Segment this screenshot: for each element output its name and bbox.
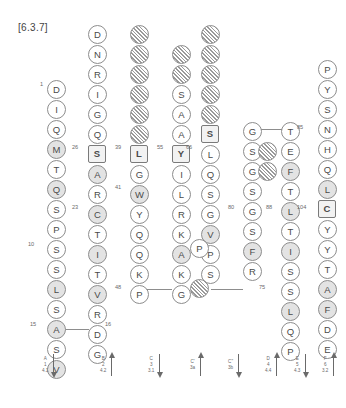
legend-cd-down-arrow-icon (235, 352, 242, 378)
residue-strand-c-5 (130, 125, 149, 144)
residue-strand-e-2: F (281, 162, 300, 181)
residue-strand-f-0: P (318, 60, 337, 79)
num-1: 1 (40, 82, 43, 88)
bulge-hatch-cdouble (190, 279, 209, 298)
residue-strand-f-2: S (318, 100, 337, 119)
legend-cp-up-arrow-icon (197, 352, 204, 378)
residue-strand-c-double-prime-2 (201, 65, 220, 84)
legend-a-text: A14.1 (42, 356, 48, 373)
topology-diagram: [6.3.7] DIQMTQSPSSLSASVDNRIGQSARCTITVRDG… (0, 0, 346, 408)
num-48: 48 (115, 285, 121, 291)
residue-strand-c-10: Q (130, 225, 149, 244)
residue-strand-f-12: F (318, 300, 337, 319)
residue-strand-d-5: S (243, 222, 262, 241)
residue-strand-c-7: G (130, 165, 149, 184)
residue-strand-f-4: H (318, 140, 337, 159)
legend-f-text: F63.2 (322, 356, 328, 373)
residue-strand-c-3 (130, 85, 149, 104)
residue-strand-e-7: S (281, 262, 300, 281)
residue-strand-c-prime-8: R (172, 205, 191, 224)
residue-strand-f-7: C (318, 200, 336, 218)
residue-strand-c-double-prime-9: G (201, 205, 220, 224)
residue-strand-c-6: L (130, 145, 148, 163)
residue-strand-b-13: V (88, 285, 107, 304)
legend-f: F63.2 (322, 352, 337, 378)
num-39: 39 (115, 145, 121, 151)
residue-strand-f-3: N (318, 120, 337, 139)
residue-strand-f-1: Y (318, 80, 337, 99)
residue-strand-c-prime-12: G (172, 285, 191, 304)
legend-cd-text: C"3b (228, 359, 233, 370)
arrow-head (157, 372, 163, 378)
residue-strand-a-3: M (47, 140, 66, 159)
residue-strand-b-2: R (88, 65, 107, 84)
residue-strand-c-double-prime-8: S (201, 185, 220, 204)
legend-f-code: 3.2 (322, 368, 328, 374)
num-26: 26 (72, 145, 78, 151)
bulge-hatch-d-upper (258, 142, 277, 161)
residue-strand-b-10: T (88, 225, 107, 244)
legend-b-code: 4.2 (100, 368, 106, 374)
num-88: 88 (266, 205, 272, 211)
residue-strand-d-0: G (243, 122, 262, 141)
residue-strand-f-5: Q (318, 160, 337, 179)
residue-strand-c-prime-11: K (172, 265, 191, 284)
residue-strand-c-prime-7: L (172, 185, 191, 204)
residue-strand-f-9: Y (318, 240, 337, 259)
legend-c-down-arrow-icon (156, 352, 163, 378)
legend-cp: C'3a (190, 352, 204, 378)
residue-strand-c-double-prime-0 (201, 25, 220, 44)
num-75: 75 (259, 285, 265, 291)
residue-strand-b-8: R (88, 185, 107, 204)
legend-c-code: 3.1 (148, 368, 154, 374)
legend-cp-number: 3a (190, 365, 195, 371)
residue-strand-b-5: Q (88, 125, 107, 144)
arrow-head (303, 372, 309, 378)
residue-strand-e-10: Q (281, 322, 300, 341)
residue-strand-c-8: W (130, 185, 149, 204)
residue-strand-a-9: S (47, 260, 66, 279)
residue-strand-e-1: E (281, 142, 300, 161)
residue-strand-a-4: T (47, 160, 66, 179)
legend-cp-text: C'3a (190, 359, 195, 370)
num-80: 80 (228, 205, 234, 211)
legend-d: D44.4 (265, 352, 280, 378)
figure-label: [6.3.7] (18, 22, 48, 33)
legend-cd-number: 3b (228, 365, 233, 371)
num-41: 41 (115, 185, 121, 191)
num-55: 55 (157, 145, 163, 151)
residue-strand-f-8: Y (318, 220, 337, 239)
residue-strand-b-9: C (88, 205, 107, 224)
residue-strand-d-3: S (243, 182, 262, 201)
residue-strand-f-13: D (318, 320, 337, 339)
residue-strand-f-10: T (318, 260, 337, 279)
residue-strand-b-6: S (88, 145, 106, 163)
num-10: 10 (28, 242, 34, 248)
residue-strand-a-11: S (47, 300, 66, 319)
residue-strand-e-8: S (281, 282, 300, 301)
residue-strand-c-double-prime-1 (201, 45, 220, 64)
residue-strand-c-prime-10: A (172, 245, 191, 264)
residue-strand-a-7: P (47, 220, 66, 239)
residue-strand-c-prime-9: K (172, 225, 191, 244)
residue-strand-a-8: S (47, 240, 66, 259)
legend-e-code: 4.3 (294, 368, 300, 374)
residue-strand-e-5: T (281, 222, 300, 241)
residue-strand-c-prime-3: A (172, 105, 191, 124)
legend-c: C33.1 (148, 352, 163, 378)
residue-strand-c-prime-2: S (172, 85, 191, 104)
num-15: 15 (30, 322, 36, 328)
legend-d-text: D44.4 (265, 356, 271, 373)
residue-strand-a-5: Q (47, 180, 66, 199)
residue-strand-b-7: A (88, 165, 107, 184)
legend-a: A14.1 (42, 352, 57, 378)
legend-d-code: 4.4 (265, 368, 271, 374)
legend-e-text: E54.3 (294, 356, 300, 373)
arrow-head (109, 352, 115, 358)
residue-strand-b-1: N (88, 45, 107, 64)
residue-strand-a-2: Q (47, 120, 66, 139)
residue-strand-c-double-prime-4 (201, 105, 220, 124)
legend-e-down-arrow-icon (302, 352, 309, 378)
residue-strand-c-2 (130, 65, 149, 84)
residue-strand-b-0: D (88, 25, 107, 44)
